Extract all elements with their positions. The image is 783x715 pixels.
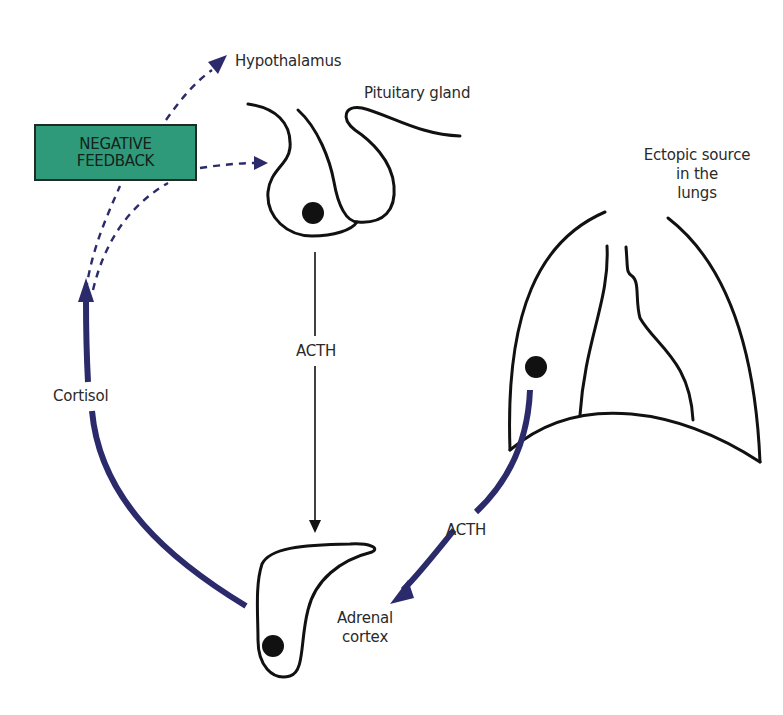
pituitary-gland-label: Pituitary gland — [364, 84, 470, 103]
adrenal-line1: Adrenal — [330, 609, 400, 628]
ectopic-line2: in the — [632, 165, 762, 184]
negative-feedback-line1: NEGATIVE — [79, 136, 151, 153]
negative-feedback-box: NEGATIVE FEEDBACK — [34, 124, 197, 181]
pituitary-tumour-dot — [302, 202, 324, 224]
ectopic-source-label: Ectopic source in the lungs — [632, 146, 762, 203]
lungs-shape — [510, 212, 760, 462]
acth-arrow-pituitary — [309, 252, 321, 533]
acth-label-pituitary: ACTH — [296, 342, 336, 361]
arrowhead-pituitary — [254, 156, 268, 170]
acth-label-lungs: ACTH — [446, 521, 486, 540]
diagram-canvas — [0, 0, 783, 715]
cortisol-label: Cortisol — [53, 387, 108, 406]
ectopic-line3: lungs — [632, 184, 762, 203]
cortisol-arrow — [78, 278, 246, 606]
negative-feedback-line2: FEEDBACK — [77, 153, 154, 170]
lung-tumour-dot — [525, 356, 547, 378]
hypothalamus-label: Hypothalamus — [235, 52, 341, 71]
ectopic-line1: Ectopic source — [632, 146, 762, 165]
adrenal-cortex-label: Adrenal cortex — [330, 609, 400, 647]
adrenal-line2: cortex — [330, 628, 400, 647]
pituitary-gland-shape — [248, 104, 460, 236]
adrenal-tumour-dot — [262, 635, 284, 657]
